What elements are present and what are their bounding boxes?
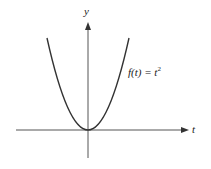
y-axis-label: y — [84, 6, 89, 17]
function-label-exponent: 2 — [157, 65, 161, 73]
x-axis-arrow-icon — [181, 127, 189, 133]
parabola-plot — [0, 0, 211, 169]
function-label: f(t) = t2 — [128, 66, 161, 78]
function-label-text: f(t) = t — [128, 66, 157, 78]
x-axis-label: t — [192, 124, 195, 135]
y-axis-arrow-icon — [85, 22, 91, 30]
